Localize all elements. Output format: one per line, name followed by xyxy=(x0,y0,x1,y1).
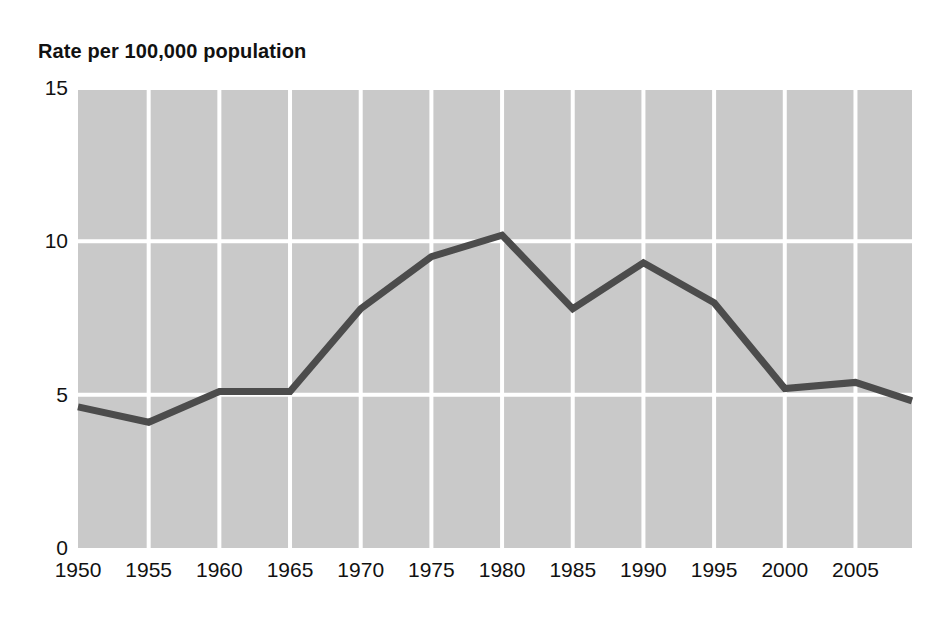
x-tick-label-1985: 1985 xyxy=(549,558,596,582)
chart-figure: Rate per 100,000 population 051015 19501… xyxy=(0,0,948,619)
x-tick-label-2000: 2000 xyxy=(761,558,808,582)
plot-background xyxy=(78,88,912,548)
plot-area: 051015 195019551960196519701975198019851… xyxy=(0,0,948,619)
x-tick-label-1990: 1990 xyxy=(620,558,667,582)
line-chart-svg xyxy=(0,0,948,619)
x-tick-label-1955: 1955 xyxy=(125,558,172,582)
y-tick-label-15: 15 xyxy=(30,76,68,100)
x-tick-label-1960: 1960 xyxy=(196,558,243,582)
y-tick-label-5: 5 xyxy=(30,383,68,407)
x-tick-label-1975: 1975 xyxy=(408,558,455,582)
x-tick-label-1970: 1970 xyxy=(337,558,384,582)
x-tick-label-1965: 1965 xyxy=(267,558,314,582)
y-tick-label-0: 0 xyxy=(30,536,68,560)
x-tick-label-1980: 1980 xyxy=(479,558,526,582)
y-tick-label-10: 10 xyxy=(30,229,68,253)
x-tick-label-1995: 1995 xyxy=(691,558,738,582)
plot-background-group xyxy=(78,88,912,548)
x-tick-label-1950: 1950 xyxy=(55,558,102,582)
x-tick-label-2005: 2005 xyxy=(832,558,879,582)
